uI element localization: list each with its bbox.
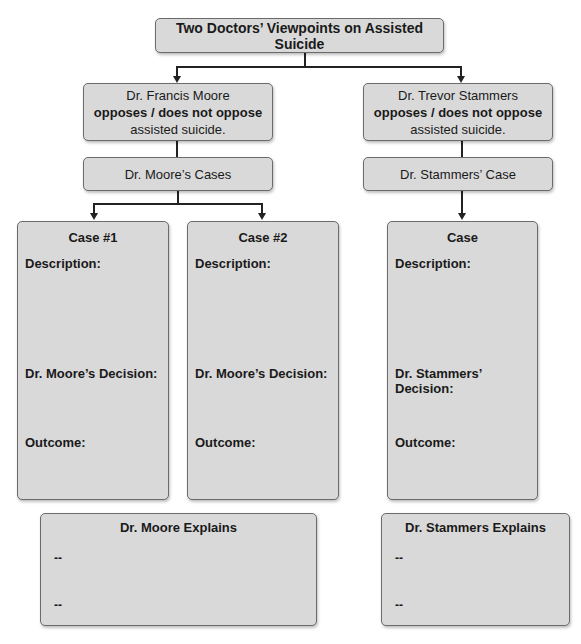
stammers-case-box: Dr. Stammers’ Case [363,157,553,191]
arrow-to-stammers-icon [457,76,465,83]
stammers-name: Dr. Trevor Stammers [398,87,518,104]
stammers-case-heading: Case [388,230,537,245]
title-box: Two Doctors’ Viewpoints on Assisted Suic… [155,18,444,53]
stammers-case-label: Dr. Stammers’ Case [400,167,516,182]
case1-description-label: Description: [25,256,101,271]
connector-stammers-to-case [461,140,463,157]
case1-card[interactable]: Case #1 Description: Dr. Moore’s Decisio… [17,221,169,500]
moore-cases-label: Dr. Moore’s Cases [125,167,232,182]
stammers-explains-bullet-2: -- [395,598,403,612]
moore-name: Dr. Francis Moore [126,87,229,104]
connector-cases-horizontal [93,203,263,205]
stammers-case-description-label: Description: [395,256,471,271]
case2-card[interactable]: Case #2 Description: Dr. Moore’s Decisio… [187,221,339,500]
case1-decision-label: Dr. Moore’s Decision: [25,366,157,381]
moore-explains-bullet-1: -- [54,551,62,565]
arrow-to-case2-icon [258,213,266,220]
moore-explains-heading: Dr. Moore Explains [41,520,316,535]
stammers-case-decision-label: Dr. Stammers’ Decision: [395,366,537,396]
stammers-stance-choice[interactable]: opposes / does not oppose [374,104,542,121]
stammers-stance-tail: assisted suicide. [410,121,505,138]
connector-stammers-case-down [461,190,463,214]
diagram-title: Two Doctors’ Viewpoints on Assisted Suic… [156,20,443,52]
arrow-to-case1-icon [90,213,98,220]
case2-decision-label: Dr. Moore’s Decision: [195,366,327,381]
case2-description-label: Description: [195,256,271,271]
stammers-explains-bullet-1: -- [395,551,403,565]
stammers-stance-box: Dr. Trevor Stammers opposes / does not o… [363,83,553,141]
stammers-case-card[interactable]: Case Description: Dr. Stammers’ Decision… [387,221,538,500]
moore-stance-choice[interactable]: opposes / does not oppose [94,104,262,121]
moore-cases-box: Dr. Moore’s Cases [83,157,273,191]
case2-heading: Case #2 [188,230,338,245]
case1-outcome-label: Outcome: [25,435,86,450]
connector-title-horizontal [176,66,462,68]
case2-outcome-label: Outcome: [195,435,256,450]
arrow-to-moore-icon [173,76,181,83]
arrow-to-stammers-case-icon [458,213,466,220]
connector-title-down [304,52,306,67]
moore-explains-bullet-2: -- [54,598,62,612]
connector-moore-to-cases [176,140,178,157]
stammers-explains-box[interactable]: Dr. Stammers Explains -- -- [381,513,570,626]
case1-heading: Case #1 [18,230,168,245]
connector-cases-down [177,190,179,204]
moore-explains-box[interactable]: Dr. Moore Explains -- -- [40,513,317,626]
stammers-explains-heading: Dr. Stammers Explains [382,520,569,535]
stammers-case-outcome-label: Outcome: [395,435,456,450]
moore-stance-box: Dr. Francis Moore opposes / does not opp… [83,83,273,141]
moore-stance-tail: assisted suicide. [130,121,225,138]
